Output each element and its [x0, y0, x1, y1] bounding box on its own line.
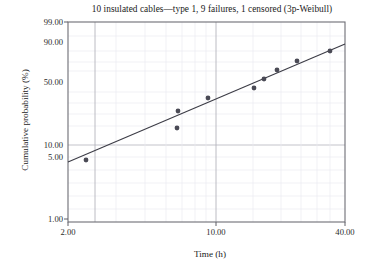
- data-point: [262, 77, 267, 82]
- data-point: [175, 126, 180, 131]
- data-point: [328, 49, 333, 54]
- data-point: [275, 68, 280, 73]
- plot-background: [68, 22, 345, 222]
- data-point: [206, 96, 211, 101]
- chart-figure: 10 insulated cables—type 1, 9 failures, …: [0, 0, 377, 270]
- data-point: [252, 86, 257, 91]
- plot-canvas: [0, 0, 377, 270]
- data-point: [176, 109, 181, 114]
- data-point: [295, 59, 300, 64]
- data-point: [84, 158, 89, 163]
